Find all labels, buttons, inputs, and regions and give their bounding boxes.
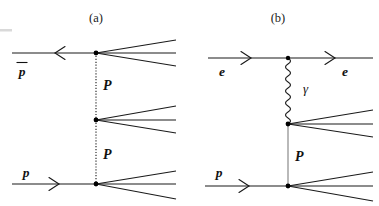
scan-speck-icon bbox=[0, 29, 12, 32]
electron-out-label: e bbox=[342, 64, 348, 79]
jet-line bbox=[96, 184, 176, 199]
jet-line bbox=[288, 186, 373, 201]
antiproton-label-group: p bbox=[17, 63, 28, 80]
panel-a: (a) p p P P bbox=[12, 11, 176, 199]
jet-middle-a bbox=[96, 106, 176, 133]
proton-label-b: p bbox=[215, 165, 223, 180]
pomeron-label-b: P bbox=[295, 149, 304, 164]
pomeron-upper-label-a: P bbox=[103, 78, 112, 93]
vertex-bottom-a bbox=[94, 182, 99, 187]
jet-top-a bbox=[96, 40, 176, 66]
electron-in-label: e bbox=[219, 64, 225, 79]
vertex-electron-b bbox=[286, 56, 290, 60]
jet-line bbox=[288, 124, 373, 137]
photon-label: γ bbox=[303, 81, 309, 96]
jet-line bbox=[96, 171, 176, 184]
jet-upper-b bbox=[288, 110, 373, 137]
vertex-middle-a bbox=[94, 118, 99, 123]
feynman-diagram-canvas: (a) p p P P bbox=[0, 0, 379, 206]
photon-wavy-line bbox=[286, 58, 291, 124]
vertex-proton-b bbox=[286, 184, 291, 189]
proton-label-a: p bbox=[22, 165, 30, 180]
antiproton-label: p bbox=[18, 64, 26, 79]
jet-line bbox=[288, 110, 373, 124]
jet-bottom-a bbox=[96, 171, 176, 199]
figure-root: (a) p p P P bbox=[0, 0, 379, 206]
jet-lower-b bbox=[288, 172, 373, 201]
panel-a-caption: (a) bbox=[89, 11, 103, 25]
vertex-photon-pomeron-b bbox=[286, 122, 291, 127]
jet-line bbox=[96, 53, 176, 66]
panel-b-caption: (b) bbox=[271, 11, 286, 25]
jet-line bbox=[96, 40, 176, 53]
jet-line bbox=[96, 106, 176, 120]
jet-line bbox=[96, 120, 176, 133]
panel-b: (b) e e γ P p bbox=[205, 11, 373, 201]
vertex-top-a bbox=[94, 51, 99, 56]
pomeron-lower-label-a: P bbox=[103, 147, 112, 162]
jet-line bbox=[288, 172, 373, 186]
